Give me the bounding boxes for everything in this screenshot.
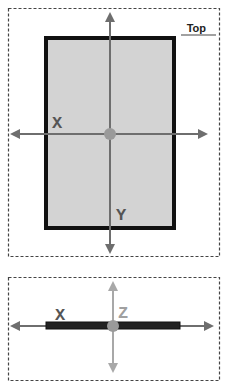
- origin-point: [104, 128, 116, 140]
- side-x-axis-label: X: [55, 306, 66, 325]
- top-view-title: Top: [187, 22, 207, 34]
- y-axis-label: Y: [116, 206, 127, 225]
- z-axis-label: Z: [118, 304, 128, 323]
- x-axis-label: X: [52, 114, 63, 133]
- orientation-diagram: Top X Y X Z: [0, 0, 232, 390]
